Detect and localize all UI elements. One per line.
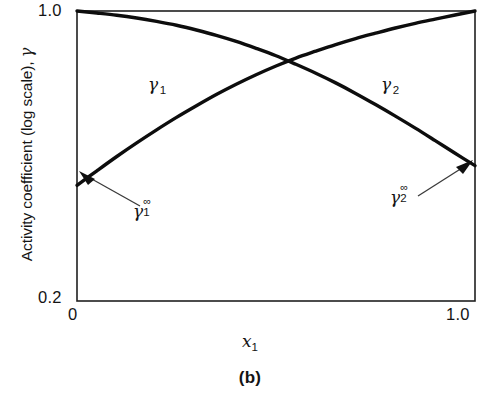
annotation-label-gamma-2-infinity: γ ∞ 2 [390, 186, 409, 207]
curve-label-gamma-1-subscript: 1 [158, 84, 166, 96]
x-axis-title-subscript: 1 [252, 341, 258, 353]
curve-gamma-1 [77, 11, 475, 185]
gamma-2-infinity-arrow-line [418, 168, 462, 196]
gamma-1-infinity-annotation [79, 171, 140, 206]
annotation-gamma-2-subscript: 2 [400, 192, 406, 204]
curve-label-gamma-1: γ1 [148, 74, 166, 96]
gamma-2-infinity-arrow-head [456, 160, 473, 174]
x-axis-title: x1 [0, 331, 500, 353]
curve-label-gamma-2-subscript: 2 [391, 84, 399, 96]
figure-panel-b: Activity coefficient (log scale), γ 1.0 … [0, 0, 500, 402]
figure-caption: (b) [0, 368, 500, 388]
x-axis-title-symbol: x [242, 331, 252, 351]
annotation-gamma-1-subscript: 1 [143, 206, 149, 218]
annotation-gamma-2-symbol: γ [390, 187, 400, 207]
gamma-2-infinity-annotation [418, 160, 473, 196]
curve-label-gamma-2: γ2 [381, 74, 399, 96]
curve-label-gamma-2-symbol: γ [381, 74, 391, 94]
annotation-label-gamma-1-infinity: γ ∞ 1 [133, 200, 152, 221]
curve-label-gamma-1-symbol: γ [148, 74, 158, 94]
annotation-gamma-1-symbol: γ [133, 201, 143, 221]
